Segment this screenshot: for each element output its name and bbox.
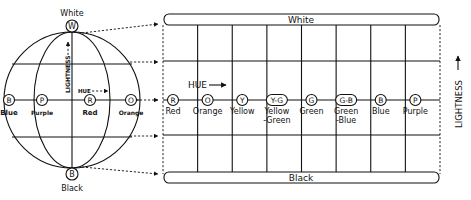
pole-letter: W: [68, 22, 76, 31]
grid-hue-blue: BBlue: [372, 95, 390, 117]
sphere-hue-indicator: HUE: [78, 88, 108, 94]
grid-hue-red: RRed: [165, 95, 180, 117]
hue-marker: Y-G: [266, 95, 287, 106]
hue-marker: P: [410, 95, 421, 106]
pole-letter: B: [69, 170, 75, 179]
hue-marker: R: [85, 95, 96, 106]
grid-hue-label: Orange: [193, 107, 223, 116]
sphere-point-blue: BBlue: [0, 95, 18, 118]
sphere-point-label: Blue: [0, 109, 18, 117]
grid-lightness-label: LIGHTNESS: [454, 80, 464, 128]
hue-marker-letter: R: [87, 96, 92, 105]
hue-marker: B: [4, 95, 15, 106]
grid-hue-label: Green-Blue: [334, 107, 358, 125]
grid-hue-yellow-green: Y-GYellow-Green: [263, 95, 290, 126]
projection-arrow-top: [82, 24, 158, 33]
sphere-bottom-pole: B Black: [61, 168, 83, 193]
hue-marker: P: [37, 95, 48, 106]
hue-marker: G-B: [336, 95, 357, 106]
hue-marker-letter: O: [205, 96, 211, 105]
hue-marker-letter: O: [128, 96, 134, 105]
sphere-point-label: Purple: [31, 109, 53, 117]
pole-label-white: White: [60, 9, 83, 18]
grid-hue-label: Purple: [403, 107, 428, 116]
sphere-top-pole: W White: [60, 9, 83, 32]
sphere-lightness-indicator: LIGHTNESS: [64, 42, 71, 93]
hue-marker: R: [168, 95, 179, 106]
hue-label: HUE: [78, 88, 91, 94]
grid-hue-green: GGreen: [299, 95, 323, 117]
hue-marker-letter: B: [378, 96, 383, 105]
projection-arrow-bottom: [82, 167, 158, 174]
hue-marker-letter: B: [6, 96, 11, 105]
sphere-point-label: Orange: [119, 109, 144, 117]
lightness-label: LIGHTNESS: [64, 55, 71, 93]
hue-marker-letter: P: [413, 96, 418, 105]
hue-marker: B: [375, 95, 386, 106]
hue-lightness-diagram: W White B Black LIGHTNESS HUE BBluePPurp…: [0, 0, 471, 200]
hue-lightness-grid: White Black HUE LIGHTNESS RRedOOrangeYYe…: [163, 14, 464, 183]
hue-marker-letter: R: [170, 96, 175, 105]
hue-marker: Y: [237, 95, 248, 106]
grid-hue-label: Green: [299, 107, 323, 116]
sphere-point-red: RRed: [82, 95, 97, 118]
grid-hue-label: HUE: [188, 80, 207, 90]
grid-hue-green-blue: G-BGreen-Blue: [334, 95, 358, 126]
grid-hue-purple: PPurple: [403, 95, 428, 117]
white-bar-label: White: [288, 15, 315, 25]
hue-marker-letter: Y-G: [270, 96, 284, 105]
hue-marker: G: [306, 95, 317, 106]
grid-hue-label: Yellow: [229, 107, 255, 116]
hue-marker-letter: G-B: [339, 96, 352, 105]
pole-label-black: Black: [61, 184, 83, 193]
hue-marker-letter: P: [40, 96, 45, 105]
hue-marker: O: [126, 95, 137, 106]
sphere-point-label: Red: [82, 109, 97, 117]
black-bar-label: Black: [289, 173, 314, 183]
hue-marker-letter: Y: [239, 96, 245, 105]
grid-hue-label: Yellow-Green: [263, 107, 290, 125]
grid-hue-label: Blue: [372, 107, 390, 116]
hue-marker-letter: G: [309, 96, 315, 105]
grid-hue-yellow: YYellow: [229, 95, 255, 117]
color-sphere: W White B Black LIGHTNESS HUE BBluePPurp…: [0, 9, 143, 193]
grid-hue-label: Red: [165, 107, 180, 116]
hue-marker: O: [202, 95, 213, 106]
